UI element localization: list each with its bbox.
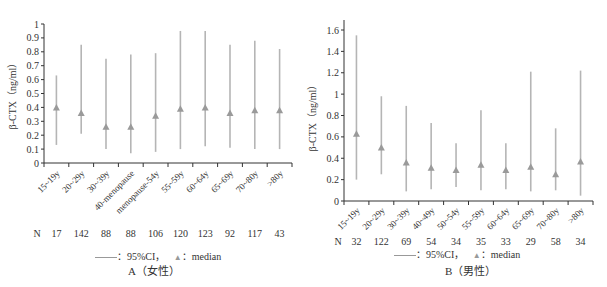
sample-size: 142 [74,228,89,239]
y-tick-label: 0.1 [27,144,40,155]
median-marker-icon [53,104,60,111]
legend-median-label: ：median [481,249,520,260]
y-tick-label: 1 [34,19,39,30]
sample-size: 17 [51,228,61,239]
y-tick-label: 1.4 [327,46,340,57]
median-marker-icon [276,107,283,114]
caption-female: A（女性） [128,262,180,278]
median-marker-icon [502,167,509,174]
x-category-label: menopause-54y [114,168,162,216]
legend-male: ：95%CI， ▲：median [394,246,520,261]
x-category-label: 60~64y [485,205,512,232]
median-triangle-icon: ▲ [473,251,481,260]
x-category-label: 60~64y [184,168,211,195]
y-tick-label: 0.2 [27,130,40,141]
y-tick-label: 0.8 [327,110,340,121]
x-category-label: 15~19y [35,168,62,195]
x-category-label: 65~69y [510,205,537,232]
median-triangle-icon: ▲ [174,253,182,262]
median-marker-icon [552,171,559,178]
median-marker-icon [78,109,85,116]
sample-size: 122 [374,236,389,247]
median-marker-icon [103,123,110,130]
y-tick-label: 0.8 [27,46,40,57]
sample-size-label: N [334,236,341,247]
legend-median-label: ：median [182,251,221,262]
y-tick-label: 1.6 [327,25,340,36]
sample-size: 32 [351,236,361,247]
sample-size: 34 [576,236,586,247]
legend-ci-label: ：95%CI， [117,251,165,262]
y-tick-label: 0.2 [327,174,340,185]
median-marker-icon [353,130,360,137]
legend-ci-label: ：95%CI， [416,249,464,260]
sample-size: 43 [275,228,285,239]
x-category-label: 50~54y [435,205,462,232]
chart-panel-female: 00.10.20.30.40.50.60.70.80.91β-CTX（ng/ml… [0,0,300,287]
y-tick-label: 1.2 [327,67,340,78]
x-category-label: 40~49y [410,205,437,232]
sample-size: 29 [526,236,536,247]
ci-line-icon [394,255,416,256]
ci-line-icon [95,257,117,258]
median-marker-icon [577,158,584,165]
chart-panel-male: 00.20.40.60.811.21.41.6β-CTX（ng/ml）15~19… [300,0,607,287]
median-marker-icon [202,104,209,111]
y-tick-label: 0.6 [27,74,40,85]
median-marker-icon [403,159,410,166]
median-marker-icon [152,112,159,119]
median-marker-icon [378,144,385,151]
y-tick-label: 1 [334,89,339,100]
median-marker-icon [251,107,258,114]
y-tick-label: 0.4 [327,153,340,164]
y-tick-label: 0.6 [327,131,340,142]
median-marker-icon [527,163,534,170]
sample-size: 123 [198,228,213,239]
x-category-label: 30~39y [385,205,412,232]
errorbar-chart-female: 00.10.20.30.40.50.60.70.80.91β-CTX（ng/ml… [0,0,300,287]
y-axis-label: β-CTX（ng/ml） [307,80,318,152]
sample-size: 117 [247,228,262,239]
y-tick-label: 0.7 [27,60,40,71]
median-marker-icon [127,123,134,130]
x-category-label: >80y [265,168,286,189]
x-category-label: 55~59y [159,168,186,195]
x-category-label: 20~29y [360,205,387,232]
caption-male: B（男性） [445,262,496,278]
sample-size: 120 [173,228,188,239]
sample-size: 106 [148,228,163,239]
median-marker-icon [177,105,184,112]
y-tick-label: 0.9 [27,32,40,43]
y-axis-label: β-CTX（ng/ml） [7,58,18,130]
median-marker-icon [453,167,460,174]
y-tick-label: 0.5 [27,88,40,99]
y-tick-label: 0 [34,158,39,169]
y-tick-label: 0.3 [27,116,40,127]
x-category-label: 65~69y [209,168,236,195]
median-marker-icon [227,109,234,116]
y-tick-label: 0 [334,196,339,207]
x-category-label: 20~29y [60,168,87,195]
y-tick-label: 0.4 [27,102,40,113]
sample-size-label: N [33,228,40,239]
x-category-label: 15~19y [335,205,362,232]
x-category-label: 70~80y [535,205,562,232]
sample-size: 88 [101,228,111,239]
x-category-label: >80y [566,205,587,226]
sample-size: 88 [126,228,136,239]
sample-size: 58 [551,236,561,247]
median-marker-icon [477,161,484,168]
median-marker-icon [428,164,435,171]
legend-female: ：95%CI， ▲：median [95,248,221,263]
errorbar-chart-male: 00.20.40.60.811.21.41.6β-CTX（ng/ml）15~19… [300,0,607,287]
x-category-label: 55~59y [460,205,487,232]
sample-size: 92 [225,228,235,239]
x-category-label: 70~80y [234,168,261,195]
